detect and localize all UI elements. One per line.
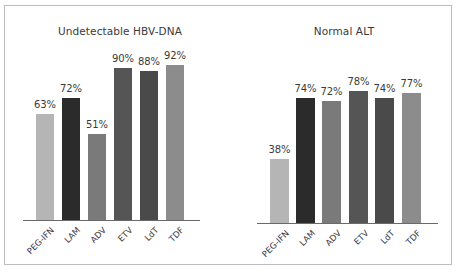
bar-value-label: 74% <box>294 83 316 94</box>
bar-etv <box>349 91 368 223</box>
bar-adv <box>322 101 341 223</box>
chart-normal-alt: Normal ALT 38%PEG-IFN74%LAM72%ADV78%ETV7… <box>0 0 458 276</box>
x-tick-label: PEG-IFN <box>259 228 290 259</box>
x-tick-label: ETV <box>351 228 370 247</box>
bar-value-label: 78% <box>347 76 369 87</box>
x-tick-label: ADV <box>323 228 343 248</box>
x-tick-label: LAM <box>297 228 317 248</box>
bar-value-label: 38% <box>268 144 290 155</box>
x-axis-baseline <box>257 223 438 224</box>
bar-ldt <box>375 98 394 223</box>
bar-value-label: 77% <box>400 78 422 89</box>
chart-title: Normal ALT <box>314 25 374 37</box>
bar-peg-ifn <box>270 159 289 223</box>
x-tick-label: TDF <box>403 228 422 247</box>
bar-lam <box>296 98 315 223</box>
bar-value-label: 72% <box>320 86 342 97</box>
bar-tdf <box>402 93 421 223</box>
bar-value-label: 74% <box>373 83 395 94</box>
x-tick-label: LdT <box>378 228 396 246</box>
